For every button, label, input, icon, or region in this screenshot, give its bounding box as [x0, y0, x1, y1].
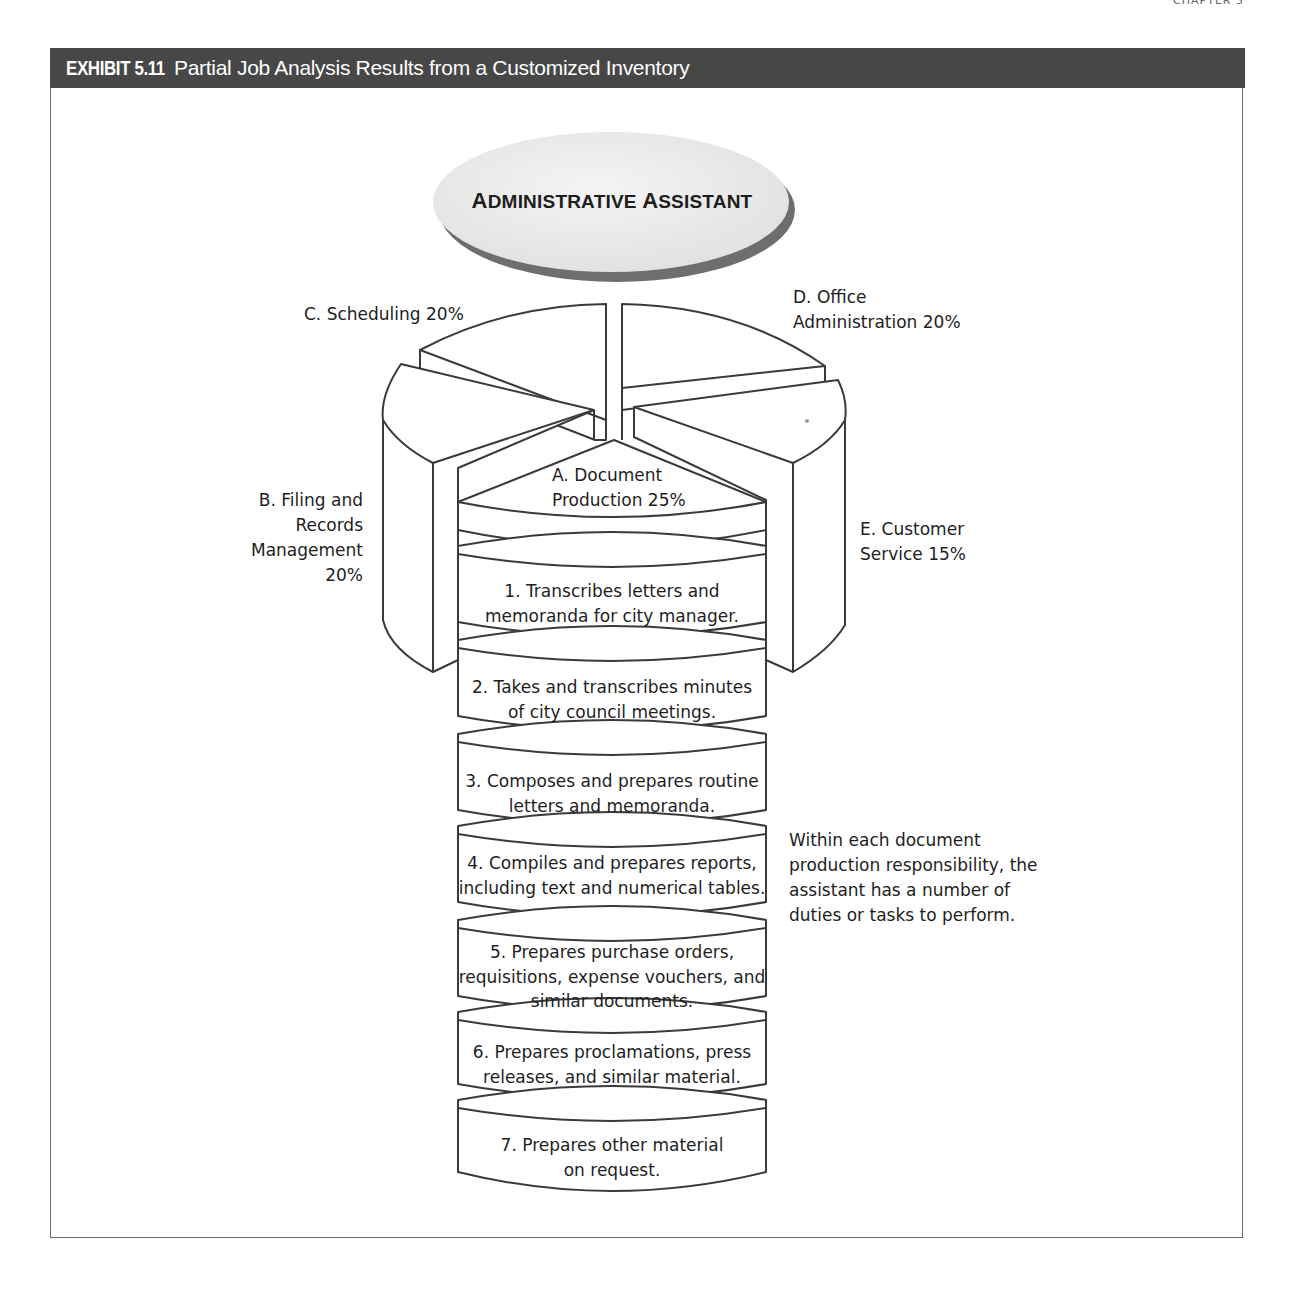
task-5-text: 5. Prepares purchase orders, requisition…	[458, 940, 766, 1014]
label-d-office-administration: D. Office Administration 20%	[793, 285, 961, 335]
label-c-scheduling: C. Scheduling 20%	[304, 302, 464, 327]
task-1-text: 1. Transcribes letters and memoranda for…	[458, 579, 766, 628]
label-e-customer-service: E. Customer Service 15%	[860, 517, 966, 567]
job-title: ADMINISTRATIVE ASSISTANT	[432, 188, 792, 214]
task-6-text: 6. Prepares proclamations, press release…	[458, 1040, 766, 1089]
task-3-text: 3. Composes and prepares routine letters…	[458, 769, 766, 818]
task-2-text: 2. Takes and transcribes minutes of city…	[458, 675, 766, 724]
label-b-filing-records: B. Filing and Records Management 20%	[240, 488, 363, 588]
task-7-text: 7. Prepares other material on request.	[458, 1133, 766, 1182]
label-a-document-production: A. Document Production 25%	[552, 463, 686, 513]
task-4-text: 4. Compiles and prepares reports, includ…	[458, 851, 766, 900]
stray-dot	[805, 419, 809, 423]
annotation-text: Within each document production responsi…	[789, 828, 1038, 928]
